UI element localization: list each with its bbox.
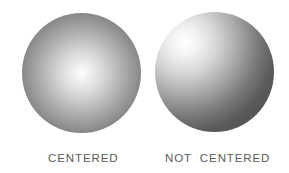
centered-gradient-sphere [22,13,141,133]
centered-label: CENTERED [48,152,118,165]
off-center-gradient-sphere [155,12,274,132]
gradient-comparison-figure: CENTERED NOT CENTERED [0,0,289,173]
not-centered-label: NOT CENTERED [165,152,270,165]
